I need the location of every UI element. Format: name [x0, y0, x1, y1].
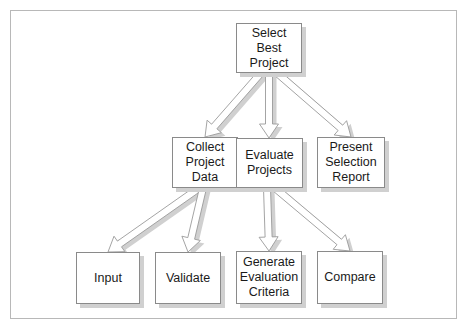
arrow-evaluate-to-compare — [273, 185, 350, 251]
node-generate-evaluation-criteria: Generate Evaluation Criteria — [236, 251, 302, 304]
arrow-root-to-collect — [205, 71, 264, 137]
node-collect-project-data: Collect Project Data — [172, 137, 238, 188]
node-input: Input — [76, 252, 140, 304]
node-compare: Compare — [317, 251, 383, 304]
node-validate: Validate — [155, 252, 221, 304]
node-evaluate-projects: Evaluate Projects — [236, 138, 303, 188]
arrow-root-to-present — [275, 70, 351, 137]
node-present-selection-report: Present Selection Report — [317, 137, 385, 188]
node-select-best-project: Select Best Project — [236, 23, 302, 73]
